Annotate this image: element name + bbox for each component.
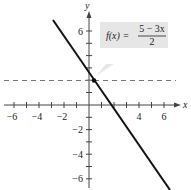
y-tick-label: −6 (72, 173, 83, 184)
callout-pointer (96, 64, 114, 76)
graph-svg: f(x) = 5 − 3x 2 y x −6 −4 −2 4 6 6 −2 −4… (0, 0, 191, 190)
function-graph: f(x) = 5 − 3x 2 y x −6 −4 −2 4 6 6 −2 −4… (0, 0, 191, 190)
x-axis-label: x (182, 99, 188, 110)
x-tick-label: −6 (7, 111, 18, 122)
fx-label: f(x) = (106, 30, 129, 42)
y-tick-label: 6 (78, 26, 83, 37)
y-axis-arrow-icon (87, 11, 92, 18)
fraction-numerator: 5 − 3x (139, 23, 165, 34)
x-tick-label: −2 (57, 111, 68, 122)
y-axis-label: y (84, 0, 90, 11)
highlight-point (92, 78, 97, 83)
fraction-denominator: 2 (150, 36, 155, 47)
y-tick-label: −2 (72, 124, 83, 135)
y-tick-label: −4 (72, 149, 83, 160)
x-tick-label: 6 (162, 111, 167, 122)
x-axis-arrow-icon (174, 103, 181, 108)
x-tick-label: 4 (137, 111, 142, 122)
x-tick-label: −4 (32, 111, 43, 122)
